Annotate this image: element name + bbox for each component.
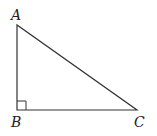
vertex-label-b: B <box>10 114 21 130</box>
triangle-abc <box>17 25 137 110</box>
right-angle-marker <box>17 101 26 110</box>
triangle-diagram: A B C <box>0 0 157 136</box>
vertex-label-c: C <box>134 114 145 130</box>
vertex-label-a: A <box>9 7 21 23</box>
